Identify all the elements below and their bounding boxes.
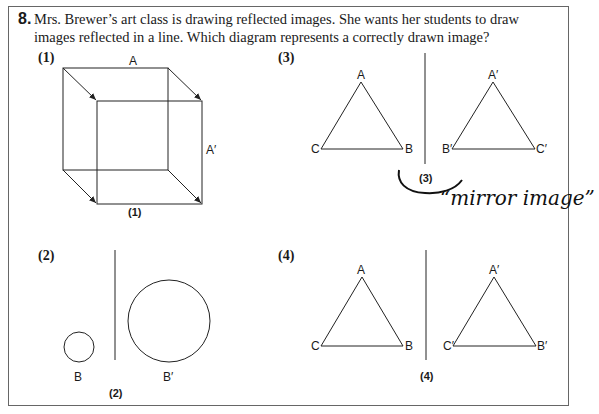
option-4-label-b: B: [405, 339, 413, 353]
diagrams: A A′ (1) A C B A′ B′ C′ (3) “mirror imag…: [0, 0, 599, 414]
option-4-label-c-prime: C′: [443, 339, 455, 353]
option-3-label-c-prime: C′: [536, 142, 548, 156]
option-4-label-a-prime: A′: [489, 263, 500, 277]
option-3-label-b-prime: B′: [442, 142, 453, 156]
option-4-diagram: [321, 250, 536, 360]
option-3-label-a-prime: A′: [488, 68, 499, 82]
option-4-label-c: C: [311, 339, 320, 353]
handwritten-annotation: “mirror image”: [440, 186, 595, 210]
option-1-diagram: [63, 68, 202, 204]
option-3-label-b: B: [405, 142, 413, 156]
option-4-caption: (4): [420, 370, 434, 382]
option-2-diagram: [64, 250, 210, 362]
option-4-label-a: A: [357, 263, 365, 277]
option-3-diagram: [321, 53, 535, 164]
option-3-caption: (3): [419, 172, 433, 184]
option-2-caption: (2): [109, 387, 123, 399]
option-1-caption: (1): [128, 206, 142, 218]
option-3-label-c: C: [311, 142, 320, 156]
option-1-label-a-prime: A′: [206, 143, 217, 157]
option-2-label-b-prime: B′: [163, 370, 174, 384]
option-2-label-b: B: [74, 370, 82, 384]
option-4-label-b-prime: B′: [537, 339, 548, 353]
option-3-label-a: A: [357, 68, 365, 82]
option-1-label-a: A: [129, 54, 137, 68]
